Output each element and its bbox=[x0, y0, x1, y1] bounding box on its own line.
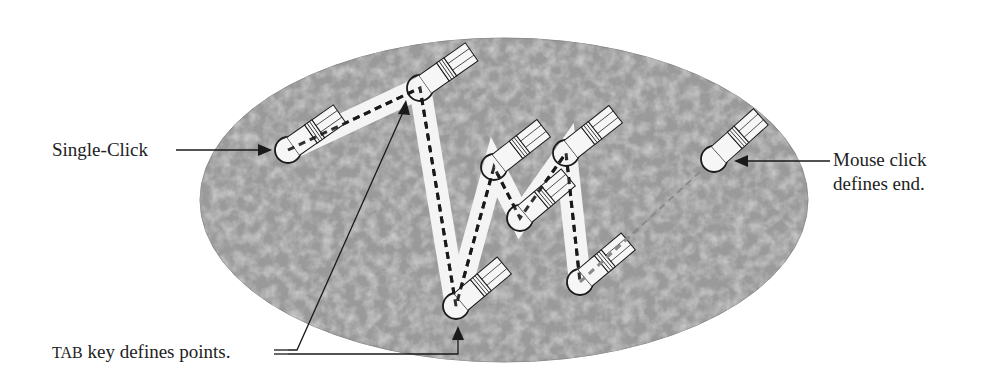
label-mouse-click-line1: Mouse click bbox=[833, 149, 926, 171]
label-tab-key: TAB key defines points. bbox=[52, 341, 230, 364]
diagram-svg bbox=[0, 0, 998, 392]
diagram-canvas: Single-Click Mouse click defines end. TA… bbox=[0, 0, 998, 392]
label-mouse-click-line2: defines end. bbox=[833, 173, 925, 195]
tab-key-name: TAB bbox=[52, 344, 83, 361]
tab-key-description: key defines points. bbox=[83, 341, 231, 362]
label-single-click: Single-Click bbox=[52, 139, 148, 161]
